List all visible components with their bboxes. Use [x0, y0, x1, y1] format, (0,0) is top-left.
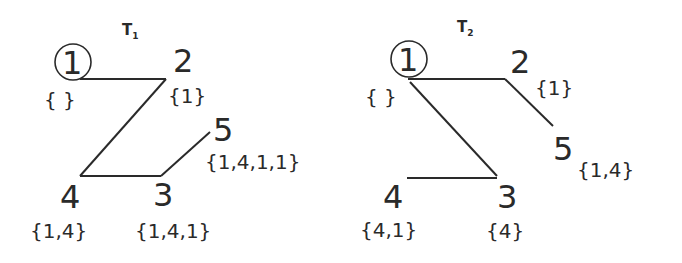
node-3-label: 3: [153, 176, 173, 214]
node-3-set: {1,4,1}: [135, 219, 211, 243]
node-5-label: 5: [553, 130, 573, 168]
edge-3-5: [161, 132, 210, 176]
node-1-label: 1: [398, 41, 418, 79]
node-3-label: 3: [497, 178, 517, 216]
node-3-set: {4}: [486, 219, 524, 243]
tree-t1-title: T1: [122, 21, 139, 41]
node-1-label: 1: [62, 44, 82, 82]
tree-t1: T1 1 { } 2 {1} 5 {1,4,1,1} 4 {1,4} 3 {1,…: [30, 21, 300, 243]
node-1-set: { }: [365, 85, 397, 109]
node-2-set: {1}: [168, 84, 206, 108]
node-4-set: {1,4}: [30, 219, 87, 243]
node-1-set: { }: [44, 88, 76, 112]
node-2-label: 2: [173, 42, 193, 80]
edge-2-4: [80, 79, 166, 176]
edge-1-3: [410, 82, 497, 176]
node-5-label: 5: [213, 111, 233, 149]
node-5-set: {1,4,1,1}: [205, 150, 300, 174]
node-2-label: 2: [510, 43, 530, 81]
tree-t2-title: T2: [457, 18, 474, 38]
node-5-set: {1,4}: [577, 158, 634, 182]
node-4-label: 4: [383, 178, 403, 216]
node-2-set: {1}: [535, 76, 573, 100]
tree-t2: T2 1 { } 2 {1} 5 {1,4} 4 {4,1} 3 {4}: [360, 18, 634, 243]
node-4-set: {4,1}: [360, 218, 417, 242]
tree-diagram: T1 1 { } 2 {1} 5 {1,4,1,1} 4 {1,4} 3 {1,…: [0, 0, 682, 263]
node-4-label: 4: [60, 178, 80, 216]
